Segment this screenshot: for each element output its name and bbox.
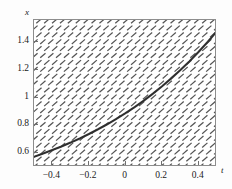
x-tick-mark [51, 161, 52, 165]
x-tick-label: −0.4 [35, 171, 67, 181]
x-tick-label: 0.2 [145, 171, 177, 181]
y-tick-label: 1.4 [0, 36, 29, 46]
y-axis-label: x [25, 8, 29, 17]
y-tick-mark [34, 97, 38, 98]
x-tick-mark [88, 161, 89, 165]
y-tick-label: 1.2 [0, 64, 29, 74]
x-tick-mark [198, 161, 199, 165]
solution-curve [34, 20, 216, 166]
x-tick-mark [125, 161, 126, 165]
plot-frame [33, 19, 216, 166]
y-tick-mark [34, 41, 38, 42]
y-tick-label: 0.8 [0, 119, 29, 129]
x-tick-label: 0 [109, 171, 141, 181]
y-tick-mark [34, 124, 38, 125]
y-tick-label: 1 [0, 92, 29, 102]
y-tick-mark [34, 69, 38, 70]
x-tick-mark [161, 161, 162, 165]
x-tick-label: −0.2 [72, 171, 104, 181]
y-tick-mark [34, 152, 38, 153]
x-axis-label: t [221, 166, 224, 175]
y-tick-label: 0.6 [0, 147, 29, 157]
x-tick-label: 0.4 [182, 171, 214, 181]
direction-field-figure: x t 1.41.210.80.6 −0.4−0.200.20.4 [0, 0, 232, 189]
